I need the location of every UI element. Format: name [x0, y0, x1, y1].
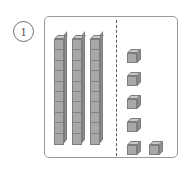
- rod-unit: [73, 123, 81, 133]
- rod-side-face: [82, 31, 85, 143]
- cube-side-face: [137, 49, 141, 63]
- rod-unit: [73, 113, 81, 123]
- rod-unit: [91, 134, 99, 144]
- rod-unit: [73, 61, 81, 71]
- rod-unit: [91, 50, 99, 60]
- rod-front-face: [90, 39, 100, 145]
- ten-rod: [54, 35, 67, 145]
- problem-number-badge: 1: [13, 21, 34, 42]
- rod-unit: [73, 134, 81, 144]
- rod-unit: [55, 123, 63, 133]
- unit-cube: [127, 95, 141, 109]
- ten-rod: [72, 35, 85, 145]
- rod-unit: [73, 40, 81, 50]
- rod-unit: [91, 71, 99, 81]
- rod-unit: [91, 61, 99, 71]
- rod-unit: [91, 102, 99, 112]
- unit-cube: [149, 141, 163, 155]
- cube-side-face: [137, 72, 141, 86]
- rod-unit: [55, 40, 63, 50]
- rod-unit: [91, 40, 99, 50]
- rod-unit: [55, 71, 63, 81]
- rod-side-face: [100, 31, 103, 143]
- rod-unit: [91, 82, 99, 92]
- cube-side-face: [159, 141, 163, 155]
- place-value-mat: [44, 16, 178, 158]
- cube-front-face: [127, 76, 137, 86]
- rod-unit: [55, 50, 63, 60]
- rod-unit: [73, 92, 81, 102]
- problem-number-label: 1: [21, 25, 27, 37]
- cube-front-face: [127, 99, 137, 109]
- rod-unit: [55, 134, 63, 144]
- rod-unit: [73, 102, 81, 112]
- cube-side-face: [137, 95, 141, 109]
- rod-unit: [55, 92, 63, 102]
- cube-front-face: [127, 145, 137, 155]
- cube-front-face: [127, 53, 137, 63]
- rod-unit: [91, 92, 99, 102]
- cube-front-face: [127, 122, 137, 132]
- rod-unit: [73, 82, 81, 92]
- rod-front-face: [54, 39, 64, 145]
- rod-unit: [55, 102, 63, 112]
- rod-unit: [91, 123, 99, 133]
- unit-cube: [127, 72, 141, 86]
- cube-side-face: [137, 141, 141, 155]
- ones-column: [123, 33, 175, 151]
- cube-side-face: [137, 118, 141, 132]
- ten-rod: [90, 35, 103, 145]
- dashed-divider-icon: [116, 20, 117, 156]
- rod-side-face: [64, 31, 67, 143]
- unit-cube: [127, 49, 141, 63]
- rod-unit: [73, 71, 81, 81]
- rod-unit: [91, 113, 99, 123]
- unit-cube: [127, 141, 141, 155]
- rod-unit: [55, 61, 63, 71]
- rod-unit: [73, 50, 81, 60]
- rod-unit: [55, 82, 63, 92]
- tens-column: [54, 35, 112, 151]
- rod-unit: [55, 113, 63, 123]
- unit-cube: [127, 118, 141, 132]
- cube-front-face: [149, 145, 159, 155]
- rod-front-face: [72, 39, 82, 145]
